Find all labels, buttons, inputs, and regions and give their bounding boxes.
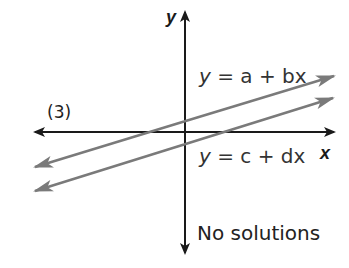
eq2-d: d xyxy=(281,144,294,168)
eq1-plus: + xyxy=(253,64,282,88)
eq2-equals: = xyxy=(211,144,240,168)
eq2-plus: + xyxy=(251,144,280,168)
eq1-b: b xyxy=(282,64,295,88)
eq1-y: y xyxy=(199,64,211,88)
eq1-x: x xyxy=(295,64,307,88)
eq2-x: x xyxy=(294,144,306,168)
eq2-y: y xyxy=(199,144,211,168)
y-axis-label: y xyxy=(166,8,176,26)
eq1-equals: = xyxy=(211,64,240,88)
panel-label: (3) xyxy=(47,104,71,121)
caption-no-solutions: No solutions xyxy=(197,223,320,243)
equation-label-a-bx: y = a + bx xyxy=(199,66,307,86)
eq1-a: a xyxy=(240,64,252,88)
x-axis-label: x xyxy=(320,144,330,162)
eq2-c: c xyxy=(240,144,251,168)
equation-label-c-dx: y = c + dx xyxy=(199,146,305,166)
